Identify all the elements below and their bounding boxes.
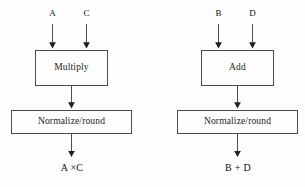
process-box-multiply-label: Multiply	[54, 63, 88, 73]
process-box-multiply[interactable]: Multiply	[35, 50, 108, 86]
input-label-a: A	[46, 9, 59, 18]
output-label-multiply: A ×C	[46, 163, 98, 173]
process-box-normalize-right[interactable]: Normalize/round	[177, 110, 298, 134]
input-label-c: C	[80, 9, 93, 18]
process-box-normalize-right-label: Normalize/round	[204, 117, 271, 127]
process-box-normalize-left-label: Normalize/round	[38, 117, 105, 127]
diagram-canvas: A C Multiply Normalize/round A ×C B D Ad…	[0, 0, 305, 187]
process-box-normalize-left[interactable]: Normalize/round	[11, 110, 132, 134]
process-box-add-label: Add	[229, 63, 246, 73]
output-label-add: B + D	[212, 163, 264, 173]
process-box-add[interactable]: Add	[201, 50, 274, 86]
input-label-d: D	[246, 9, 259, 18]
input-label-b: B	[212, 9, 225, 18]
diagram-connectors-layer	[0, 0, 305, 187]
